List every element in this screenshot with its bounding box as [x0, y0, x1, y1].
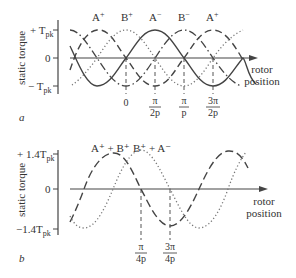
panel-b-ytick-neg-label: −1.4Tpk [16, 223, 51, 238]
panel-a-label-b-plus: B+ [121, 10, 133, 23]
panel-a-xlabel-line2: position [244, 75, 280, 87]
panel-a-xlabel-line1: rotor [251, 63, 273, 75]
panel-a-xtick-pi-2p-num: π [152, 95, 157, 106]
panel-a-ytick-zero-label: 0 [45, 52, 51, 64]
panel-a-x-arrow-icon [249, 55, 258, 61]
panel-a-label-a-minus: A− [149, 10, 162, 23]
panel-a: + Tpk 0 − Tpk static torque A+ B+ A− B− … [15, 10, 280, 123]
panel-b-tag: b [19, 252, 25, 264]
panel-a-xtick-pi-p-den: p [182, 107, 187, 118]
panel-a-tag: a [19, 111, 25, 123]
panel-b: + 1.4Tpk 0 −1.4Tpk static torque A⁺ + B⁺… [15, 142, 282, 264]
panel-b-xlabel-line2: position [246, 207, 282, 219]
panel-b-ytick-zero-label: 0 [45, 183, 51, 195]
panel-a-xtick-pi-p-num: π [181, 95, 186, 106]
panel-b-label-sum2: B⁺ + A⁻ [133, 142, 171, 154]
panel-a-ytick-pos-label: + Tpk [30, 24, 53, 39]
panel-a-label-a-plus: A+ [92, 10, 105, 23]
panel-b-xtick-3pi-4p-den: 4p [165, 253, 175, 264]
panel-b-ylabel: static torque [15, 163, 27, 217]
panel-a-xtick-3pi-2p-num: 3π [208, 95, 218, 106]
panel-b-xlabel-line1: rotor [253, 195, 275, 207]
panel-b-ytick-pos-label: + 1.4Tpk [17, 148, 54, 163]
panel-a-label-a-plus-2: A+ [206, 10, 219, 23]
panel-a-xtick-0: 0 [124, 97, 129, 108]
panel-b-xtick-3pi-4p-num: 3π [165, 241, 175, 252]
panel-b-xtick-pi-4p-num: π [138, 241, 143, 252]
panel-b-xtick-pi-4p-den: 4p [136, 253, 146, 264]
panel-b-label-sum1: A⁺ + B⁺ [91, 142, 130, 154]
panel-a-label-b-minus: B− [178, 10, 190, 23]
panel-b-x-arrow-icon [259, 186, 268, 192]
panel-a-ytick-neg-label: − Tpk [28, 80, 51, 95]
panel-a-xtick-3pi-2p-den: 2p [208, 107, 218, 118]
panel-a-ylabel: static torque [15, 31, 27, 85]
panel-a-xtick-pi-2p-den: 2p [150, 107, 160, 118]
torque-figure: + Tpk 0 − Tpk static torque A+ B+ A− B− … [0, 0, 296, 278]
